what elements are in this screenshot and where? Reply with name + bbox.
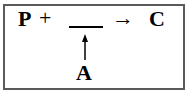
product-label: C: [149, 8, 165, 30]
blank-line: [69, 26, 103, 28]
added-component-label: A: [76, 62, 92, 84]
plus-sign: +: [39, 7, 51, 29]
reactant-label: P: [18, 8, 31, 30]
up-arrow-icon: [80, 34, 90, 60]
yields-arrow-icon: →: [112, 7, 134, 29]
